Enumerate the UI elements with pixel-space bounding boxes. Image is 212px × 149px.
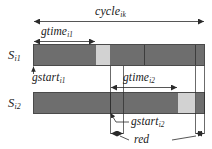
gtime-i2-label-text: gtime	[123, 71, 149, 83]
timing-diagram: Si1 Si2	[0, 0, 212, 149]
gstart-i1-label-text: gstart	[32, 71, 59, 83]
gtime-i2-label-sub: i2	[149, 77, 155, 85]
gtime-i1-label: gtimei1	[41, 26, 73, 38]
gstart-i2-label-text: gstart	[131, 115, 158, 127]
red-label: red	[134, 134, 149, 146]
gtime-i1-label-sub: i1	[67, 31, 73, 39]
red-label-text: red	[134, 133, 149, 145]
gtime-i1-label-text: gtime	[41, 25, 67, 37]
gtime-i2-label: gtimei2	[123, 72, 155, 84]
gstart-i2-pointer	[111, 113, 130, 122]
red-leader-lines	[120, 136, 196, 140]
cycle-label: cycleik	[95, 5, 126, 17]
cycle-label-text: cycle	[95, 4, 120, 18]
gstart-i2-label: gstarti2	[131, 116, 164, 128]
gstart-i1-label: gstarti1	[32, 72, 65, 84]
cycle-label-sub: ik	[120, 10, 126, 19]
gstart-i2-label-sub: i2	[159, 121, 165, 129]
gstart-i1-label-sub: i1	[60, 77, 66, 85]
